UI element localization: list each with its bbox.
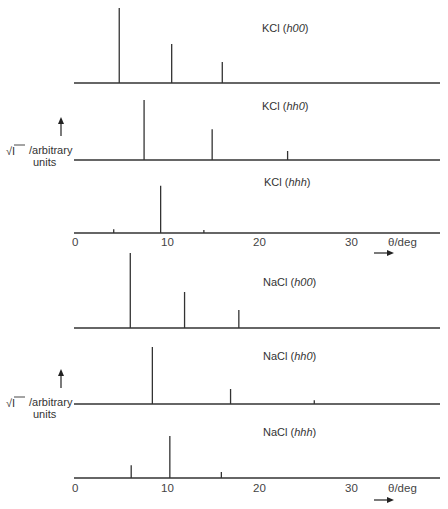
diffraction-figure: KCl (h00)KCl (hh0)KCl (hhh)NaCl (h00)NaC… xyxy=(0,0,448,509)
x-tick-label: 30 xyxy=(345,482,358,494)
x-tick-label: 0 xyxy=(72,482,78,494)
panel-nacl-hh0: NaCl (hh0) xyxy=(74,347,440,404)
x-tick-label: 20 xyxy=(253,236,266,248)
panel-title: KCl (h00) xyxy=(262,22,308,34)
x-axis-label: θ/deg xyxy=(388,482,417,494)
panel-title: NaCl (hhh) xyxy=(263,426,316,438)
kcl-x-axis: 0 10 20 30 θ/deg xyxy=(72,236,417,256)
panel-nacl-hhh: NaCl (hhh) xyxy=(74,426,440,478)
x-axis-arrow-head-icon xyxy=(387,250,394,256)
y-axis-text: /arbitrary xyxy=(29,396,73,408)
panel-title: KCl (hh0) xyxy=(262,100,308,112)
y-axis-symbol: √I xyxy=(6,145,15,157)
panel-title: KCl (hhh) xyxy=(264,176,310,188)
y-axis-arrow-head-icon xyxy=(58,369,64,376)
panel-title: NaCl (hh0) xyxy=(263,350,316,362)
kcl-y-axis-label: √I /arbitrary units xyxy=(6,117,73,168)
y-axis-symbol: √I xyxy=(6,397,15,409)
x-tick-label: 30 xyxy=(345,236,358,248)
y-axis-text: /arbitrary xyxy=(29,144,73,156)
panel-nacl-h00: NaCl (h00) xyxy=(74,253,440,328)
panel-kcl-hhh: KCl (hhh) xyxy=(74,176,440,233)
x-tick-label: 0 xyxy=(72,236,78,248)
panel-kcl-h00: KCl (h00) xyxy=(74,8,440,83)
nacl-y-axis-label: √I /arbitrary units xyxy=(6,369,73,420)
y-axis-units: units xyxy=(33,156,57,168)
nacl-x-axis: 0 10 20 30 θ/deg xyxy=(72,482,417,503)
x-axis-arrow-head-icon xyxy=(387,497,394,503)
panel-title: NaCl (h00) xyxy=(263,276,316,288)
x-tick-label: 20 xyxy=(253,482,266,494)
x-tick-label: 10 xyxy=(161,482,174,494)
x-axis-label: θ/deg xyxy=(388,236,417,248)
y-axis-units: units xyxy=(33,408,57,420)
panel-kcl-hh0: KCl (hh0) xyxy=(74,100,440,160)
x-tick-label: 10 xyxy=(161,236,174,248)
y-axis-arrow-head-icon xyxy=(58,117,64,124)
